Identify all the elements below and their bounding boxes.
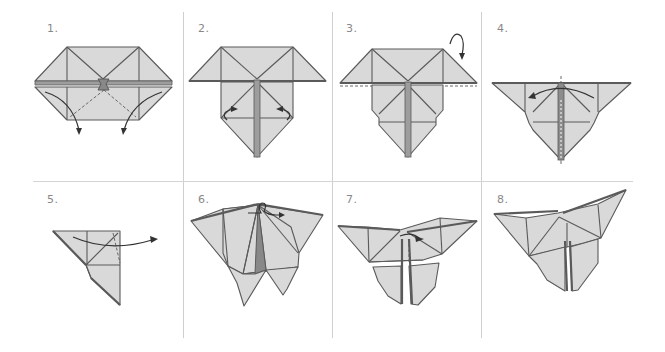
step-4-panel: 4.	[481, 0, 665, 181]
step-8-panel: 8.	[481, 181, 665, 352]
step-2-panel: 2.	[183, 0, 332, 181]
step-5-figure	[0, 181, 183, 352]
step-7-panel: 7.	[332, 181, 481, 352]
step-1-panel: 1.	[0, 0, 183, 181]
step-3-figure	[332, 0, 481, 181]
instruction-grid: 1. 2.	[0, 0, 665, 352]
step-7-figure	[332, 181, 481, 352]
step-1-figure	[0, 0, 183, 181]
step-5-panel: 5.	[0, 181, 183, 352]
step-6-figure	[183, 181, 332, 352]
step-6-panel: 6.	[183, 181, 332, 352]
turn-over-arrow	[450, 34, 463, 55]
step-4-figure	[481, 0, 665, 181]
step-8-figure	[481, 181, 665, 352]
step-2-figure	[183, 0, 332, 181]
step-3-panel: 3.	[332, 0, 481, 181]
